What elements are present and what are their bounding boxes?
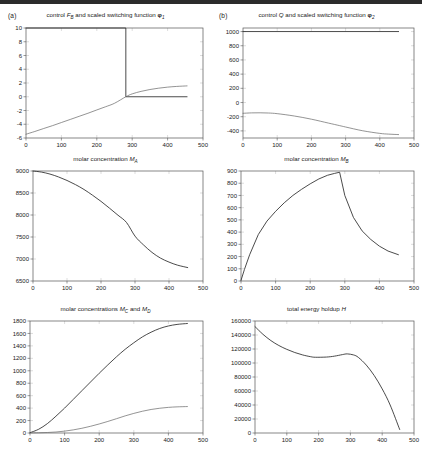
panel-control-FB-phi1: (a) control FB and scaled switching func… xyxy=(0,4,211,154)
title-var-MD: MD xyxy=(142,305,150,312)
svg-text:500: 500 xyxy=(198,437,209,443)
svg-text:800: 800 xyxy=(16,380,27,386)
title-mid: and scaled switching function xyxy=(285,11,366,18)
panel-molar-concentration-MB: molar concentration MB 01002003004005006… xyxy=(211,154,422,304)
svg-text:1200: 1200 xyxy=(13,355,27,361)
title-mid: and xyxy=(130,305,140,312)
title-prefix: molar concentration xyxy=(73,155,127,162)
svg-text:500: 500 xyxy=(409,142,420,148)
svg-text:120000: 120000 xyxy=(231,346,252,352)
svg-text:900: 900 xyxy=(227,168,238,174)
svg-text:7500: 7500 xyxy=(16,234,30,240)
svg-text:300: 300 xyxy=(345,437,356,443)
panel-title-MB: molar concentration MB xyxy=(211,155,422,164)
svg-text:600: 600 xyxy=(16,393,27,399)
svg-text:400: 400 xyxy=(229,71,240,77)
svg-text:100: 100 xyxy=(227,266,238,272)
panel-title-MA: molar concentration MA xyxy=(0,155,211,164)
title-var-MC: MC xyxy=(120,305,128,312)
svg-text:500: 500 xyxy=(198,285,209,291)
title-prefix: control xyxy=(46,11,65,18)
svg-text:300: 300 xyxy=(227,241,238,247)
svg-text:1000: 1000 xyxy=(13,368,27,374)
svg-text:0: 0 xyxy=(236,100,240,106)
svg-text:500: 500 xyxy=(227,217,238,223)
title-var-MB: MB xyxy=(340,155,348,162)
panel-molar-concentration-MA: molar concentration MA 65007000750080008… xyxy=(0,154,211,304)
plot-area-MA: 6500700075008000850090000100200300400500 xyxy=(0,167,211,297)
title-prefix: control xyxy=(258,11,277,18)
svg-text:-4: -4 xyxy=(17,121,23,127)
svg-text:0: 0 xyxy=(241,142,245,148)
svg-text:300: 300 xyxy=(127,142,138,148)
svg-text:100: 100 xyxy=(60,437,71,443)
svg-text:200: 200 xyxy=(229,85,240,91)
svg-text:40000: 40000 xyxy=(234,402,251,408)
svg-text:600: 600 xyxy=(229,57,240,63)
svg-text:0: 0 xyxy=(253,437,257,443)
svg-text:0: 0 xyxy=(19,94,23,100)
svg-text:200: 200 xyxy=(314,437,325,443)
plot-area-MC-MD: 0200400600800100012001400160018000100200… xyxy=(0,317,211,449)
svg-text:20000: 20000 xyxy=(234,416,251,422)
svg-text:6: 6 xyxy=(19,53,23,59)
panel-title-MC-MD: molar concentrations MC and MD xyxy=(0,305,211,314)
svg-text:200: 200 xyxy=(96,285,107,291)
svg-text:200: 200 xyxy=(306,142,317,148)
svg-text:7000: 7000 xyxy=(16,256,30,262)
title-var-FB: FB xyxy=(67,11,74,18)
svg-text:500: 500 xyxy=(409,285,420,291)
svg-text:100: 100 xyxy=(272,142,283,148)
svg-text:60000: 60000 xyxy=(234,388,251,394)
title-var-Q: Q xyxy=(279,11,284,18)
svg-text:100: 100 xyxy=(62,285,73,291)
figure-panel-grid: (a) control FB and scaled switching func… xyxy=(0,4,422,456)
panel-title-H: total energy holdup H xyxy=(211,305,422,312)
svg-text:600: 600 xyxy=(227,205,238,211)
svg-text:-400: -400 xyxy=(227,128,240,134)
svg-text:10: 10 xyxy=(15,25,22,31)
svg-text:0: 0 xyxy=(234,278,238,284)
svg-text:400: 400 xyxy=(227,229,238,235)
title-var-MA: MA xyxy=(129,155,137,162)
title-sym-phi2: φ2 xyxy=(368,11,375,18)
svg-text:400: 400 xyxy=(374,285,385,291)
svg-text:1800: 1800 xyxy=(13,318,27,324)
svg-text:0: 0 xyxy=(239,285,243,291)
svg-text:800: 800 xyxy=(227,180,238,186)
svg-text:0: 0 xyxy=(31,285,35,291)
svg-text:-200: -200 xyxy=(227,114,240,120)
svg-text:0: 0 xyxy=(23,430,27,436)
svg-text:-2: -2 xyxy=(17,108,23,114)
svg-text:140000: 140000 xyxy=(231,332,252,338)
svg-text:2: 2 xyxy=(19,80,23,86)
title-sym-phi1: φ1 xyxy=(158,11,165,18)
svg-text:400: 400 xyxy=(377,437,388,443)
svg-text:400: 400 xyxy=(163,437,174,443)
svg-text:200: 200 xyxy=(227,254,238,260)
svg-text:1400: 1400 xyxy=(13,343,27,349)
svg-text:300: 300 xyxy=(130,285,141,291)
plot-area-control-Q-phi2: -400-20002004006008001000010020030040050… xyxy=(211,24,422,154)
svg-text:1600: 1600 xyxy=(13,331,27,337)
svg-text:9000: 9000 xyxy=(16,168,30,174)
svg-text:400: 400 xyxy=(375,142,386,148)
svg-text:300: 300 xyxy=(129,437,140,443)
svg-text:80000: 80000 xyxy=(234,374,251,380)
panel-molar-concentrations-MC-MD: molar concentrations MC and MD 020040060… xyxy=(0,304,211,456)
title-mid: and scaled switching function xyxy=(75,11,156,18)
plot-area-MB: 0100200300400500600700800900010020030040… xyxy=(211,167,422,297)
svg-text:200: 200 xyxy=(305,285,316,291)
svg-text:6500: 6500 xyxy=(16,278,30,284)
svg-text:-6: -6 xyxy=(17,135,23,141)
svg-text:1000: 1000 xyxy=(226,29,240,35)
svg-text:0: 0 xyxy=(248,430,252,436)
svg-text:160000: 160000 xyxy=(231,318,252,324)
svg-text:0: 0 xyxy=(28,437,32,443)
plot-area-control-FB-phi1: -6-4-202468100100200300400500 xyxy=(0,24,211,154)
panel-title-control-Q-phi2: control Q and scaled switching function … xyxy=(211,11,422,20)
svg-text:8: 8 xyxy=(19,39,23,45)
svg-text:200: 200 xyxy=(16,418,27,424)
svg-text:300: 300 xyxy=(341,142,352,148)
title-prefix: total energy holdup xyxy=(287,305,340,312)
